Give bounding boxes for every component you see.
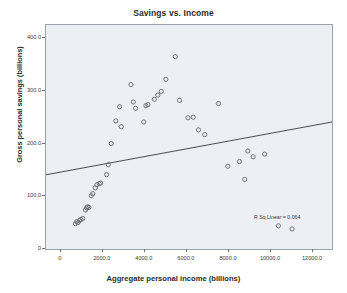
data-point <box>237 159 241 163</box>
x-tick-label: 6000.0 <box>177 255 194 261</box>
data-point <box>196 128 200 132</box>
x-tick-mark <box>102 249 103 252</box>
y-tick-label: 300.0 <box>8 87 41 93</box>
scatter-chart: Savings vs. Income R Sq Linear = 0.064 0… <box>0 0 347 293</box>
data-point <box>216 101 220 105</box>
data-point <box>114 119 118 123</box>
x-tick-label: 0 <box>58 255 61 261</box>
data-point <box>152 97 156 101</box>
data-point <box>276 224 280 228</box>
data-point <box>191 115 195 119</box>
data-point <box>226 164 230 168</box>
data-point <box>186 116 190 120</box>
data-points <box>73 55 294 232</box>
y-tick-mark <box>42 90 45 91</box>
data-point <box>104 173 108 177</box>
x-tick-mark <box>228 249 229 252</box>
y-tick-label: 100.0 <box>8 192 41 198</box>
data-point <box>133 106 137 110</box>
data-point <box>159 89 163 93</box>
data-point <box>243 177 247 181</box>
y-tick-mark <box>42 248 45 249</box>
y-tick-mark <box>42 37 45 38</box>
data-point <box>290 227 294 231</box>
x-axis-title: Aggregate personal income (billions) <box>0 274 347 283</box>
data-point <box>109 141 113 145</box>
y-tick-mark <box>42 143 45 144</box>
x-tick-label: 10000.0 <box>260 255 280 261</box>
data-point <box>177 98 181 102</box>
x-tick-label: 8000.0 <box>219 255 236 261</box>
r-squared-annotation: R Sq Linear = 0.064 <box>254 214 300 220</box>
y-axis-title: Gross personal savings (billions) <box>15 15 24 195</box>
data-point <box>118 105 122 109</box>
data-point <box>131 100 135 104</box>
data-point <box>142 120 146 124</box>
y-tick-label: 200.0 <box>8 140 41 146</box>
y-tick-label: 400.0 <box>8 34 41 40</box>
x-tick-mark <box>144 249 145 252</box>
plot-area: R Sq Linear = 0.064 <box>45 24 333 250</box>
x-tick-mark <box>186 249 187 252</box>
data-point <box>129 82 133 86</box>
x-tick-mark <box>270 249 271 252</box>
x-tick-mark <box>60 249 61 252</box>
x-tick-label: 2000.0 <box>93 255 110 261</box>
chart-title: Savings vs. Income <box>0 8 347 18</box>
data-point <box>263 152 267 156</box>
x-tick-mark <box>312 249 313 252</box>
y-tick-label: 0 <box>8 245 41 251</box>
data-point <box>203 133 207 137</box>
data-point <box>156 93 160 97</box>
x-tick-label: 12000.0 <box>302 255 322 261</box>
data-point <box>119 125 123 129</box>
data-point <box>246 149 250 153</box>
data-point <box>251 155 255 159</box>
data-point <box>164 77 168 81</box>
regression-line <box>46 122 332 175</box>
data-point <box>173 55 177 59</box>
x-tick-label: 4000.0 <box>135 255 152 261</box>
y-tick-mark <box>42 195 45 196</box>
